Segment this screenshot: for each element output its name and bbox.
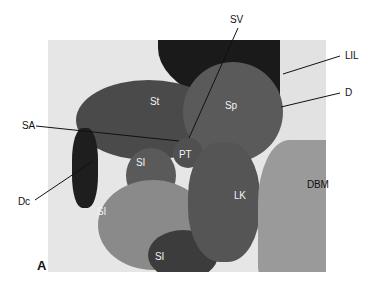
label-dbm: DBM [307, 179, 329, 190]
mri-figure: SV LIL D SA St Sp PT Dc SI SI SI LK DBM … [0, 0, 381, 290]
label-sv: SV [230, 14, 243, 25]
label-pt: PT [179, 149, 191, 160]
label-lk: LK [234, 190, 246, 201]
label-si-left: SI [97, 206, 106, 217]
label-si-upper: SI [136, 157, 145, 168]
label-st: St [150, 96, 159, 107]
label-sp: Sp [225, 100, 237, 111]
label-lil: LIL [345, 50, 358, 61]
leader-lines [0, 0, 381, 290]
label-si-lower: SI [155, 251, 164, 262]
label-sa: SA [22, 120, 35, 131]
panel-letter: A [37, 258, 46, 273]
label-d: D [345, 87, 352, 98]
label-dc: Dc [18, 196, 30, 207]
